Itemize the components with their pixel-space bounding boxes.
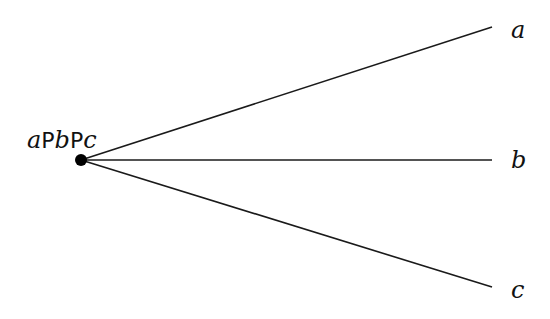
root-label-p2: P xyxy=(70,128,83,153)
root-label-a: a xyxy=(27,126,41,154)
edge-to-c xyxy=(81,160,492,287)
leaf-label-b: b xyxy=(511,148,526,172)
root-label-p1: P xyxy=(41,128,54,153)
edge-to-a xyxy=(81,27,492,160)
root-label: aPbPc xyxy=(27,128,97,152)
branch-diagram xyxy=(0,0,550,319)
root-label-c: c xyxy=(83,126,96,154)
leaf-label-c: c xyxy=(511,278,524,302)
leaf-label-a: a xyxy=(511,18,525,42)
root-node xyxy=(75,154,87,166)
root-label-b: b xyxy=(55,126,70,154)
